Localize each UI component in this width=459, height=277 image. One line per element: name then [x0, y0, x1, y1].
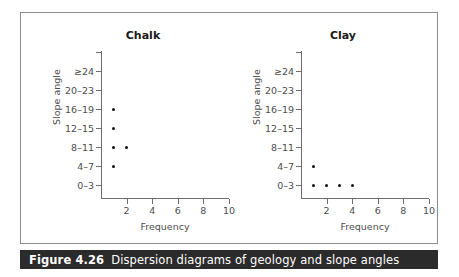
y-tick-chalk: [96, 185, 101, 186]
plot-area-clay: Frequency 0–34–78–1112–1516–1920–23≥2424…: [301, 51, 429, 199]
x-axis-title-clay: Frequency: [301, 221, 429, 232]
data-point-chalk: [112, 165, 115, 168]
y-tick-label-clay: 12–15: [265, 123, 294, 134]
x-tick-clay: [352, 199, 353, 204]
y-tick-label-chalk: 12–15: [65, 123, 94, 134]
x-tick-label-clay: 4: [349, 205, 355, 216]
chart-panel-clay: Clay Slope angle Frequency 0–34–78–1112–…: [243, 25, 443, 240]
x-tick-chalk: [178, 199, 179, 204]
x-axis-line-chalk: [101, 198, 229, 199]
x-tick-chalk: [127, 199, 128, 204]
y-tick-clay: [296, 147, 301, 148]
y-axis-title-clay: Slope angle: [251, 69, 262, 125]
y-tick-clay: [296, 52, 301, 53]
data-point-clay: [325, 184, 328, 187]
y-tick-clay: [296, 166, 301, 167]
y-tick-label-clay: ≥24: [274, 66, 294, 77]
figure-caption-number: Figure 4.26: [29, 253, 104, 267]
x-axis-title-chalk: Frequency: [101, 221, 229, 232]
y-tick-chalk: [96, 128, 101, 129]
y-tick-label-chalk: ≥24: [74, 66, 94, 77]
y-tick-chalk: [96, 90, 101, 91]
x-tick-chalk: [229, 199, 230, 204]
figure-caption: Figure 4.26Dispersion diagrams of geolog…: [29, 253, 399, 267]
y-tick-label-chalk: 16–19: [65, 104, 94, 115]
x-tick-label-chalk: 4: [149, 205, 155, 216]
chart-title-chalk: Chalk: [43, 29, 243, 42]
x-tick-clay: [403, 199, 404, 204]
y-axis-title-chalk: Slope angle: [51, 69, 62, 125]
x-tick-chalk: [203, 199, 204, 204]
data-point-chalk: [112, 108, 115, 111]
y-tick-label-chalk: 0–3: [77, 180, 94, 191]
y-tick-chalk: [96, 166, 101, 167]
x-tick-label-clay: 8: [400, 205, 406, 216]
x-tick-chalk: [152, 199, 153, 204]
y-tick-chalk: [96, 71, 101, 72]
y-tick-clay: [296, 90, 301, 91]
x-tick-label-clay: 2: [324, 205, 330, 216]
figure-caption-bar: Figure 4.26Dispersion diagrams of geolog…: [20, 250, 438, 269]
x-tick-label-chalk: 8: [200, 205, 206, 216]
figure-container: Chalk Slope angle Frequency 0–34–78–1112…: [0, 0, 459, 277]
y-tick-clay: [296, 128, 301, 129]
y-tick-label-clay: 16–19: [265, 104, 294, 115]
figure-caption-text: Dispersion diagrams of geology and slope…: [111, 253, 399, 267]
x-tick-label-chalk: 6: [175, 205, 181, 216]
x-tick-clay: [327, 199, 328, 204]
x-tick-label-clay: 10: [423, 205, 435, 216]
y-tick-clay: [296, 185, 301, 186]
y-tick-chalk: [96, 52, 101, 53]
y-tick-label-clay: 4–7: [277, 161, 294, 172]
data-point-clay: [312, 165, 315, 168]
data-point-clay: [351, 184, 354, 187]
y-tick-label-chalk: 20–23: [65, 85, 94, 96]
y-tick-chalk: [96, 147, 101, 148]
chart-plate: Chalk Slope angle Frequency 0–34–78–1112…: [20, 12, 438, 244]
y-tick-label-clay: 20–23: [265, 85, 294, 96]
chart-panel-chalk: Chalk Slope angle Frequency 0–34–78–1112…: [43, 25, 243, 240]
y-tick-label-chalk: 8–11: [71, 142, 94, 153]
data-point-chalk: [112, 127, 115, 130]
plot-area-chalk: Frequency 0–34–78–1112–1516–1920–23≥2424…: [101, 51, 229, 199]
y-axis-line-clay: [301, 51, 302, 199]
y-axis-line-chalk: [101, 51, 102, 199]
chart-title-clay: Clay: [243, 29, 443, 42]
x-tick-clay: [429, 199, 430, 204]
y-tick-chalk: [96, 109, 101, 110]
y-tick-clay: [296, 109, 301, 110]
x-tick-label-chalk: 10: [223, 205, 235, 216]
data-point-chalk: [125, 146, 128, 149]
y-tick-clay: [296, 71, 301, 72]
y-tick-label-clay: 8–11: [271, 142, 294, 153]
data-point-chalk: [112, 146, 115, 149]
x-axis-line-clay: [301, 198, 429, 199]
data-point-clay: [338, 184, 341, 187]
y-tick-label-clay: 0–3: [277, 180, 294, 191]
x-tick-clay: [378, 199, 379, 204]
x-tick-label-chalk: 2: [124, 205, 130, 216]
data-point-clay: [312, 184, 315, 187]
x-tick-label-clay: 6: [375, 205, 381, 216]
y-tick-label-chalk: 4–7: [77, 161, 94, 172]
